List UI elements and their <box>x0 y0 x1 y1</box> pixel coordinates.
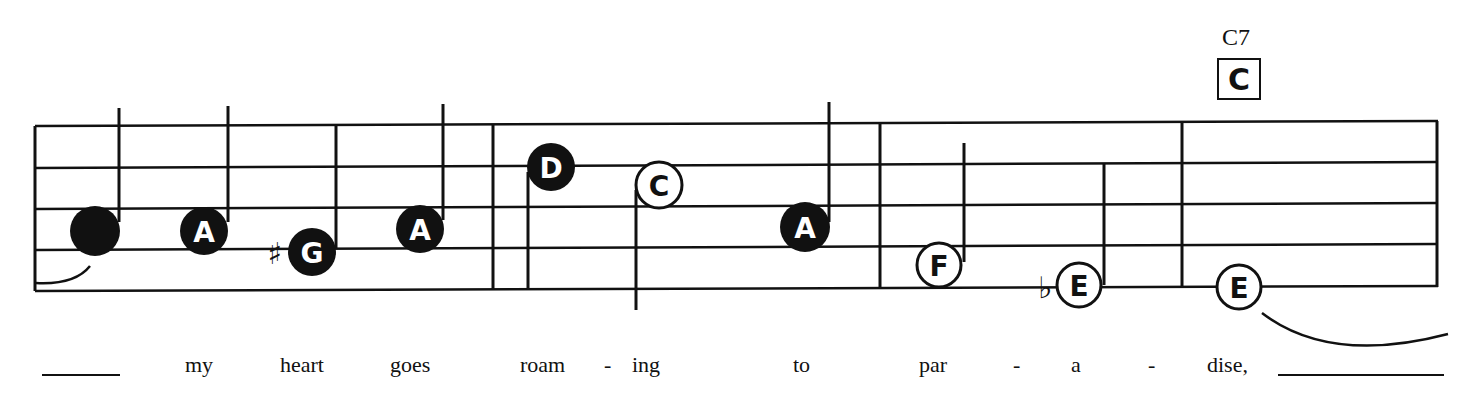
note-C: C <box>636 162 682 208</box>
lyric-roam: roam <box>520 352 565 378</box>
lyric-par: par <box>919 352 947 378</box>
lyric-extender-end <box>1278 374 1444 376</box>
svg-text:♭: ♭ <box>1038 270 1052 305</box>
note-A: A <box>396 205 444 253</box>
lyric-to: to <box>793 352 810 378</box>
staff-lines <box>35 121 1438 291</box>
svg-text:C: C <box>649 170 670 203</box>
lyric-hyphen: - <box>1148 352 1155 378</box>
note-1 <box>70 206 120 256</box>
note-F: F <box>917 243 961 287</box>
note-A: A <box>780 202 830 252</box>
lyric-heart: heart <box>280 352 324 378</box>
note-G-sharp: ♯ G <box>268 228 336 276</box>
lyric-hyphen: - <box>604 352 611 378</box>
note-E: E <box>1217 265 1261 309</box>
lyric-dise: dise, <box>1207 352 1248 378</box>
chord-name: C7 <box>1222 24 1250 51</box>
lyric-ing: ing <box>632 352 660 378</box>
svg-text:F: F <box>929 250 948 283</box>
svg-text:E: E <box>1229 272 1248 305</box>
svg-text:D: D <box>539 152 562 185</box>
lyric-my: my <box>185 352 213 378</box>
lyric-hyphen: - <box>1013 352 1020 378</box>
note-A: A <box>180 207 228 255</box>
note-E-flat: ♭ E <box>1038 263 1101 307</box>
svg-text:A: A <box>193 216 215 249</box>
tie-in <box>36 266 90 283</box>
svg-text:A: A <box>794 212 816 245</box>
svg-text:A: A <box>409 214 431 247</box>
svg-text:E: E <box>1069 270 1088 303</box>
svg-text:♯: ♯ <box>268 236 283 271</box>
note-D: D <box>527 143 575 191</box>
svg-text:G: G <box>301 237 324 270</box>
lyric-extender-start <box>42 374 120 376</box>
lyric-a: a <box>1071 352 1081 378</box>
tie-out <box>1262 313 1448 346</box>
lyric-goes: goes <box>390 352 430 378</box>
chord-diagram-box: C <box>1217 58 1261 100</box>
